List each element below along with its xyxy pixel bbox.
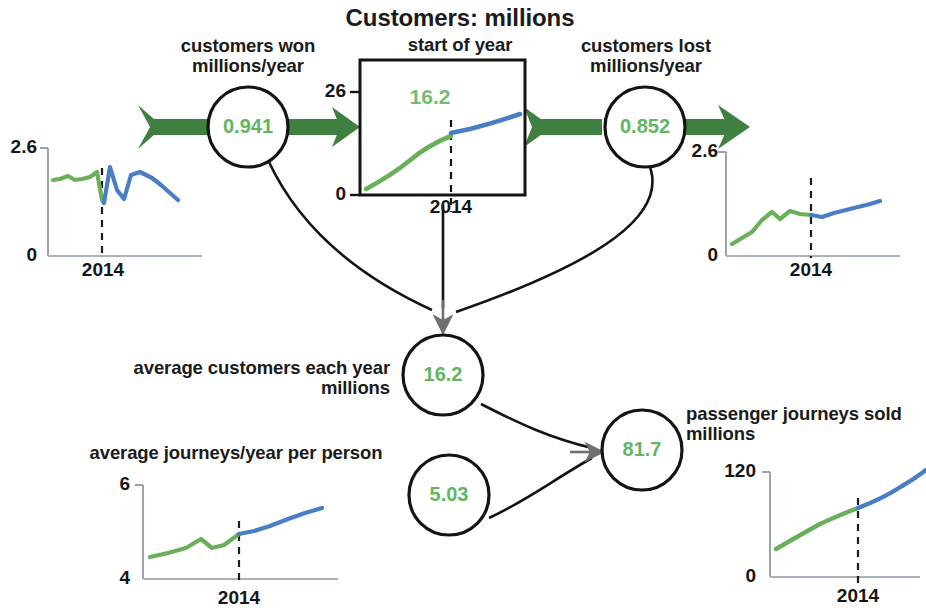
inflow-rate-value: 0.941 (208, 115, 288, 138)
connector-average-to-journeys (481, 404, 592, 448)
outflow-pipe-left (534, 119, 602, 135)
avg-journeys-chart (135, 485, 338, 586)
connector-journeys-per-person-to-journeys (489, 458, 592, 518)
stock-divider-label: 2014 (421, 196, 481, 218)
average-journeys-value: 5.03 (409, 483, 489, 506)
journeys-sold-chart (762, 470, 926, 584)
journeys-series-historic (150, 534, 239, 557)
diagram-title: Customers: millions (310, 5, 610, 31)
lost-series-projected (811, 201, 880, 217)
journeys-sold-value: 81.7 (602, 438, 682, 461)
won-axis-max: 2.6 (0, 136, 37, 158)
outflow-rate-value: 0.852 (605, 115, 685, 138)
lost-series-historic (732, 211, 811, 244)
sold-series-historic (776, 508, 858, 549)
journeys-divider-label: 2014 (209, 587, 269, 609)
inflow-label: customers won millions/year (158, 36, 338, 76)
sparkline-series-projected (104, 167, 178, 203)
outflow-label: customers lost millions/year (558, 36, 734, 76)
stock-and-flow-diagram: Customers: millions start of year custom… (0, 0, 926, 611)
sold-axis-min: 0 (700, 565, 756, 587)
diagram-subtitle: start of year (340, 35, 580, 55)
won-divider-label: 2014 (73, 259, 133, 281)
journeys-axis-min: 4 (100, 567, 130, 589)
journeys-series-projected (239, 508, 322, 534)
stock-box-border (360, 60, 525, 195)
lost-axis-min: 0 (676, 244, 718, 266)
lost-divider-label: 2014 (781, 259, 841, 281)
won-axis-min: 0 (0, 244, 37, 266)
sparkline-series-historic (53, 172, 104, 203)
lost-axis-max: 2.6 (676, 140, 718, 162)
journeys-sold-label: passenger journeys sold millions (686, 404, 926, 444)
stock-value-label: 16.2 (385, 85, 475, 109)
stock-axis-min: 0 (304, 183, 346, 205)
customers-stock-box (350, 60, 525, 212)
sold-divider-label: 2014 (828, 585, 888, 607)
sold-series-projected (858, 470, 926, 508)
journeys-axis-max: 6 (100, 473, 130, 495)
inflow-pipe-right (285, 119, 340, 135)
average-customers-label: average customers each year millions (60, 358, 390, 398)
customers-won-sparkline (40, 148, 202, 258)
sold-axis-max: 120 (700, 460, 756, 482)
average-journeys-label: average journeys/year per person (86, 443, 386, 463)
average-customers-value: 16.2 (403, 363, 483, 386)
customers-lost-sparkline (718, 152, 900, 258)
stock-axis-max: 26 (304, 80, 346, 102)
